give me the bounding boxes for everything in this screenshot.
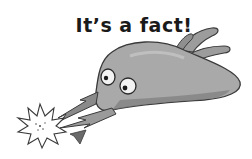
eye-right-icon: [120, 78, 136, 94]
creature-illustration: [0, 0, 252, 159]
spark-burst-icon: [18, 104, 66, 148]
eye-left-icon: [101, 69, 115, 85]
